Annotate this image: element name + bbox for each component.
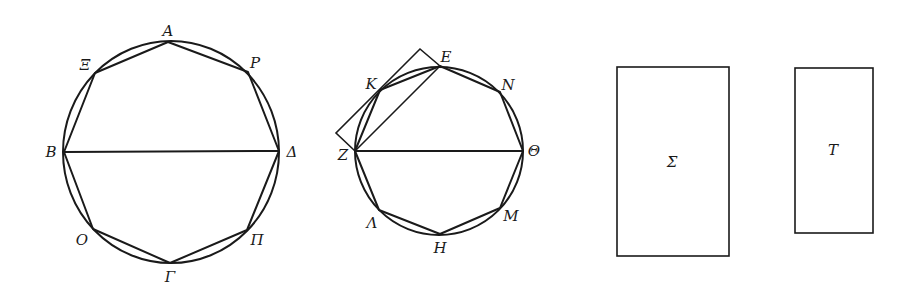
vertex-label: Κ [364, 75, 377, 93]
vertex-label: Μ [502, 207, 519, 225]
vertex-label: E [440, 48, 452, 66]
figure-2-labels: ENΘΜΗΛΖΚ [337, 48, 540, 257]
vertex-label: Λ [365, 214, 378, 232]
vertex-label: Γ [164, 268, 176, 286]
vertex-label: Ξ [79, 56, 91, 74]
vertex-label: Ζ [337, 146, 349, 164]
figure-1-circle-octagon: AΡΔΠΓΟΒΞ [44, 22, 297, 286]
vertex-label: Ρ [249, 54, 261, 72]
rectangle-sigma-label: Σ [666, 153, 678, 171]
vertex-label: A [161, 22, 174, 40]
geometry-diagram: AΡΔΠΓΟΒΞ ENΘΜΗΛΖΚ Σ Τ [0, 0, 916, 291]
rectangle-sigma-group: Σ [617, 67, 729, 256]
square-on-ze [336, 49, 440, 151]
diameter-b-delta [64, 151, 279, 152]
figure-1-labels: AΡΔΠΓΟΒΞ [44, 22, 297, 286]
vertex-label: Β [44, 143, 56, 161]
rectangle-tau-label: Τ [828, 141, 839, 159]
vertex-label: Η [432, 239, 447, 257]
figure-2-circle-octagon: ENΘΜΗΛΖΚ [336, 48, 540, 257]
rectangle-tau-group: Τ [795, 68, 873, 233]
vertex-label: Π [249, 231, 264, 249]
vertex-label: Ο [76, 231, 88, 249]
vertex-label: Δ [286, 143, 298, 161]
vertex-label: N [500, 76, 515, 94]
vertex-label: Θ [528, 142, 540, 160]
